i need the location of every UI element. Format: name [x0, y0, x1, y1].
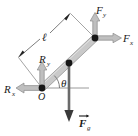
free-body-diagram-figure: O ℓ θ R x R y F x F y F g [0, 0, 138, 136]
force-gravity-label: F g [78, 114, 91, 132]
diagram-canvas: O ℓ θ R x R y F x F y F g [0, 0, 138, 136]
vector-force-x [95, 33, 122, 43]
reaction-x-label: R x [3, 83, 16, 98]
force-x-label: F x [122, 32, 134, 47]
force-y-label-base: F [95, 4, 103, 16]
vector-force-gravity [64, 63, 73, 122]
vector-reaction-x [16, 83, 40, 93]
force-gravity-vector-overarrow-head [86, 114, 89, 117]
reaction-x-label-base: R [3, 83, 11, 95]
angle-theta-label: θ [61, 77, 67, 89]
dimension-arrowhead-lower [18, 50, 25, 57]
rod-top-node-dot [92, 35, 99, 42]
reaction-y-label-subscript: y [46, 60, 51, 68]
force-x-label-subscript: x [129, 39, 134, 47]
reaction-y-label-base: R [38, 53, 46, 65]
reaction-x-label-subscript: x [11, 90, 16, 98]
origin-label: O [38, 91, 45, 102]
vector-force-gravity-arrowhead [64, 110, 73, 122]
force-gravity-label-subscript: g [87, 124, 91, 132]
length-label: ℓ [42, 31, 47, 43]
force-gravity-label-base: F [78, 117, 87, 129]
force-y-label-subscript: y [102, 11, 107, 19]
dimension-extension-upper [71, 14, 96, 39]
vector-reaction-x-shaft [16, 83, 40, 93]
force-x-label-base: F [122, 32, 130, 44]
center-of-mass-dot [66, 60, 73, 67]
dimension-arrowhead-upper [64, 13, 70, 21]
vector-force-x-shaft [95, 33, 122, 43]
